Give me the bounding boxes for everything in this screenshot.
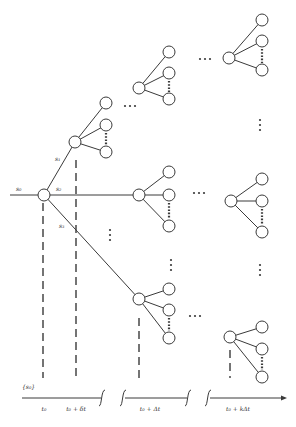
parent-node <box>225 195 237 207</box>
horizontal-ellipsis <box>204 58 206 60</box>
child-node <box>163 93 175 105</box>
parent-node <box>133 189 145 201</box>
state-set-label: {s₀} <box>22 383 35 390</box>
branch-label: s₂ <box>56 185 62 192</box>
vertical-ellipsis <box>170 269 172 271</box>
vertical-ellipsis <box>259 264 261 266</box>
child-node <box>163 166 175 178</box>
child-node <box>163 283 175 295</box>
vertical-ellipsis <box>259 274 261 276</box>
child-node <box>256 321 268 333</box>
child-node <box>256 343 268 355</box>
vertical-ellipsis <box>259 269 261 271</box>
child-node <box>256 173 268 185</box>
branch-label: s₃ <box>59 222 65 229</box>
child-node <box>163 332 175 344</box>
vertical-ellipsis <box>259 124 261 126</box>
parent-node <box>69 136 81 148</box>
vertical-ellipsis <box>170 264 172 266</box>
vertical-ellipsis <box>109 239 111 241</box>
child-node <box>256 14 268 26</box>
time-tick-label: t₀ + kΔt <box>226 405 251 412</box>
time-tick-label: t₀ <box>42 405 47 412</box>
horizontal-ellipsis <box>198 192 200 194</box>
edge-s3 <box>44 195 139 299</box>
parent-node <box>223 52 235 64</box>
horizontal-ellipsis <box>203 192 205 194</box>
parent-node <box>133 82 145 94</box>
vertical-ellipsis <box>259 119 261 121</box>
child-node <box>256 195 268 207</box>
horizontal-ellipsis <box>199 315 201 317</box>
scenario-tree-diagram: s₀s₁s₂s₃{s₀} t₀t₀ + δtt₀ + Δtt₀ + kΔt <box>0 0 296 427</box>
horizontal-ellipsis <box>194 315 196 317</box>
child-node <box>100 146 112 158</box>
child-node <box>256 371 268 383</box>
horizontal-ellipsis <box>209 58 211 60</box>
time-tick-label: t₀ + Δt <box>140 405 161 412</box>
child-node <box>163 46 175 58</box>
root-node <box>38 189 50 201</box>
horizontal-ellipsis <box>134 105 136 107</box>
parent-node <box>224 331 236 343</box>
vertical-ellipsis <box>109 234 111 236</box>
vertical-ellipsis <box>109 229 111 231</box>
child-edge <box>231 201 262 232</box>
axis-arrowhead <box>281 396 287 401</box>
child-node <box>163 220 175 232</box>
child-node <box>256 226 268 238</box>
branch-label: s₁ <box>55 155 60 162</box>
horizontal-ellipsis <box>129 105 131 107</box>
vertical-ellipsis <box>259 129 261 131</box>
incoming-state-label: s₀ <box>16 185 22 192</box>
child-node <box>256 35 268 47</box>
time-axis: t₀t₀ + δtt₀ + Δtt₀ + kΔt <box>22 390 287 412</box>
child-node <box>163 67 175 79</box>
child-node <box>100 97 112 109</box>
vertical-ellipsis <box>170 259 172 261</box>
ellipsis-marks <box>109 58 261 317</box>
horizontal-ellipsis <box>124 105 126 107</box>
time-tick-label: t₀ + δt <box>66 405 86 412</box>
tree-nodes <box>38 14 268 383</box>
horizontal-ellipsis <box>199 58 201 60</box>
child-node <box>163 304 175 316</box>
horizontal-ellipsis <box>193 192 195 194</box>
parent-node <box>133 293 145 305</box>
child-node <box>163 189 175 201</box>
child-node <box>100 119 112 131</box>
horizontal-ellipsis <box>189 315 191 317</box>
child-node <box>256 64 268 76</box>
